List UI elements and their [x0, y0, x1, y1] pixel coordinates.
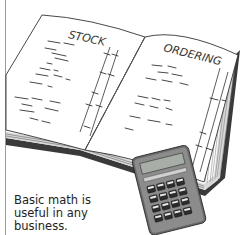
caption-line-3: business. [14, 220, 114, 233]
caption: Basic math is useful in any business. [14, 194, 114, 233]
